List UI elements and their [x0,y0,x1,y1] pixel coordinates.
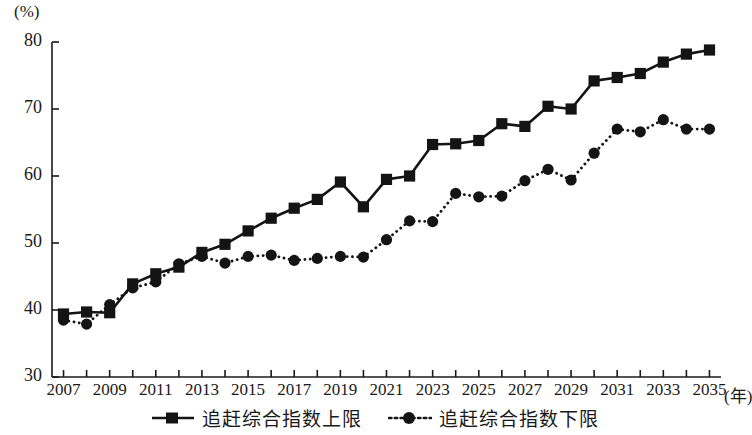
x-axis-tick-label: 2033 [639,380,687,400]
x-axis-tick-label: 2015 [224,380,272,400]
legend-marker-circle-dotted-icon [388,411,432,425]
data-point-marker [635,68,646,79]
x-axis-tick-label: 2017 [270,380,318,400]
data-point-marker [127,282,138,293]
data-point-marker [519,121,530,132]
y-axis-tick-label: 30 [8,365,42,386]
data-point-marker [566,103,577,114]
data-point-marker [658,57,669,68]
x-axis-tick-label: 2021 [363,380,411,400]
data-point-marker [427,216,438,227]
y-axis-tick-label: 60 [8,164,42,185]
data-point-marker [404,215,415,226]
x-axis-tick-label: 2025 [455,380,503,400]
legend-item-lower[interactable]: 追赶综合指数下限 [388,404,599,431]
data-point-marker [496,118,507,129]
series-line-2 [64,120,710,324]
data-point-marker [81,319,92,330]
data-point-marker [612,124,623,135]
data-point-marker [681,49,692,60]
data-point-marker [381,234,392,245]
data-point-marker [358,201,369,212]
x-axis-tick-label: 2027 [501,380,549,400]
data-point-marker [612,72,623,83]
x-axis-unit-label: (年) [724,382,752,407]
data-point-marker [473,191,484,202]
data-point-marker [381,174,392,185]
data-point-marker [266,213,277,224]
y-axis-tick-label: 70 [8,97,42,118]
y-axis-tick-label: 80 [8,30,42,51]
data-point-marker [243,251,254,262]
data-point-marker [266,250,277,261]
data-point-marker [427,139,438,150]
data-point-marker [173,258,184,269]
data-point-marker [358,252,369,263]
data-point-marker [289,203,300,214]
x-axis-tick-label: 2007 [40,380,88,400]
data-point-marker [681,124,692,135]
x-axis-tick-label: 2023 [409,380,457,400]
x-axis-tick-label: 2013 [178,380,226,400]
data-point-marker [404,170,415,181]
data-point-marker [566,174,577,185]
data-point-marker [589,75,600,86]
data-point-marker [219,239,230,250]
x-axis-tick-label: 2029 [547,380,595,400]
data-point-marker [704,124,715,135]
data-point-marker [219,258,230,269]
data-point-marker [473,135,484,146]
data-point-marker [81,306,92,317]
data-point-marker [196,251,207,262]
data-point-marker [289,255,300,266]
data-point-marker [450,138,461,149]
data-point-marker [519,175,530,186]
data-point-marker [335,176,346,187]
x-axis-tick-label: 2019 [316,380,364,400]
data-point-marker [589,148,600,159]
x-axis-tick-label: 2031 [593,380,641,400]
data-point-marker [150,276,161,287]
legend-label-lower: 追赶综合指数下限 [439,404,599,431]
data-point-marker [312,194,323,205]
data-point-marker [635,126,646,137]
data-point-marker [312,253,323,264]
x-axis-tick-label: 2011 [132,380,180,400]
data-point-marker [658,114,669,125]
data-point-marker [104,299,115,310]
data-point-marker [450,188,461,199]
legend-item-upper[interactable]: 追赶综合指数上限 [151,404,362,431]
chart-legend: 追赶综合指数上限 追赶综合指数下限 [0,404,749,431]
data-point-marker [335,251,346,262]
legend-marker-square-solid-icon [151,411,195,425]
x-axis-tick-label: 2009 [86,380,134,400]
data-point-marker [496,191,507,202]
legend-label-upper: 追赶综合指数上限 [202,404,362,431]
data-point-marker [704,44,715,55]
data-point-marker [542,164,553,175]
data-point-marker [243,225,254,236]
data-point-marker [58,315,69,326]
data-point-marker [542,101,553,112]
y-axis-tick-label: 40 [8,298,42,319]
y-axis-tick-label: 50 [8,231,42,252]
